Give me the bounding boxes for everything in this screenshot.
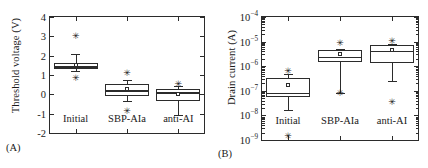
panel-b-y-axis-title: Drain current (A)	[226, 8, 237, 128]
y-axis-tick-label: 1	[41, 70, 46, 81]
y-axis-tick-label: 2	[41, 50, 46, 61]
box-plot-group: ✳✳	[262, 17, 418, 140]
y-axis-tick	[50, 133, 54, 134]
box-outlier-marker: ✳	[388, 36, 396, 45]
panel-b-plot-area: 10−910−810−710−610−510−4InitialSBP-AIaan…	[261, 16, 419, 141]
box-whisker-cap	[388, 81, 397, 82]
y-axis-tick-label: 10−6	[240, 61, 258, 72]
y-axis-tick-label: 10−5	[240, 36, 258, 47]
box-outlier-marker: ✳	[388, 98, 396, 107]
box-whisker-lower	[178, 101, 179, 115]
y-axis-tick	[200, 133, 204, 134]
y-axis-tick	[414, 140, 418, 141]
box-outlier-marker: ✳	[175, 79, 183, 88]
y-axis-tick-label: 0	[41, 89, 46, 100]
y-axis-tick-label: 10−7	[240, 85, 258, 96]
box-whisker-lower	[392, 63, 393, 81]
box-whisker-cap	[174, 115, 183, 116]
y-axis-tick-label: 4	[41, 12, 46, 23]
box-mean-marker	[390, 48, 394, 52]
figure-boxplots: Threshold voltage (V) -2-101234InitialSB…	[0, 0, 428, 168]
y-axis-tick-label: 10−9	[240, 135, 258, 146]
y-axis-tick-label: 10−4	[240, 12, 258, 23]
panel-b: Drain current (A) 10−910−810−710−610−510…	[214, 0, 428, 168]
panel-a-caption: (A)	[6, 142, 21, 153]
panel-a: Threshold voltage (V) -2-101234InitialSB…	[0, 0, 214, 168]
box-mean-marker	[176, 92, 180, 96]
panel-a-y-axis-title: Threshold voltage (V)	[10, 6, 21, 126]
y-axis-tick-label: -2	[37, 128, 46, 139]
box-plot-group: ✳	[50, 17, 204, 133]
y-axis-tick-label: 3	[41, 31, 46, 42]
panel-a-plot-area: -2-101234InitialSBP-AIaanti-AI✳✳✳✳✳	[49, 16, 205, 134]
y-axis-tick-label: 10−8	[240, 110, 258, 121]
panel-b-caption: (B)	[218, 148, 232, 159]
y-axis-tick-label: -1	[37, 108, 46, 119]
y-axis-tick	[262, 140, 266, 141]
